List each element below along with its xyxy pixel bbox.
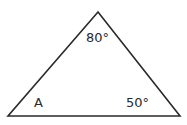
angle-top-label: 80° xyxy=(86,30,109,45)
angle-bottom-right-label: 50° xyxy=(126,95,149,110)
triangle-diagram: 80° A 50° xyxy=(0,0,187,125)
angle-bottom-left-label: A xyxy=(34,95,43,110)
